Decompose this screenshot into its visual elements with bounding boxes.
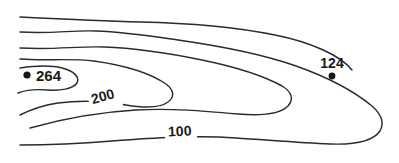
station-264-dot [23, 71, 30, 78]
station-124-dot [329, 73, 336, 80]
contour-map-canvas: 200 100 264 124 [0, 0, 399, 163]
contour-map-figure: 200 100 264 124 [0, 0, 399, 163]
station-264-label: 264 [36, 67, 62, 84]
station-124-label: 124 [320, 55, 344, 71]
contour-label-100: 100 [168, 122, 192, 139]
